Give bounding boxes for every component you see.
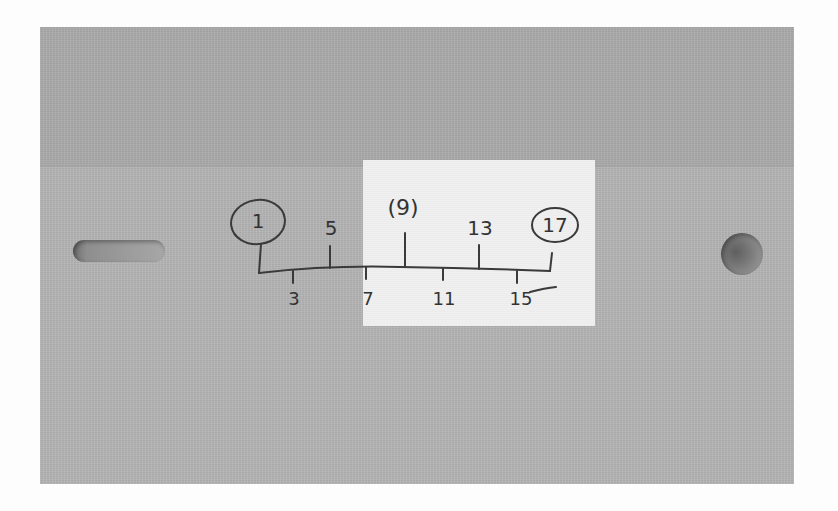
- paper-card: [40, 27, 794, 484]
- label-13: 13: [467, 218, 492, 238]
- label-15: 15: [510, 290, 533, 308]
- highlight-rectangle: [363, 160, 595, 326]
- round-hole-icon: [721, 233, 763, 275]
- label-17: 17: [542, 215, 567, 235]
- label-3: 3: [288, 290, 299, 308]
- label-5: 5: [325, 218, 338, 238]
- photo-scene: 1 5 (9) 13 17 3 7 11 15: [0, 0, 838, 511]
- card-top-flap: [40, 27, 794, 167]
- label-9: (9): [387, 197, 418, 219]
- label-1: 1: [252, 211, 265, 231]
- slot-hole-icon: [73, 240, 165, 262]
- label-7: 7: [362, 290, 373, 308]
- label-11: 11: [433, 290, 456, 308]
